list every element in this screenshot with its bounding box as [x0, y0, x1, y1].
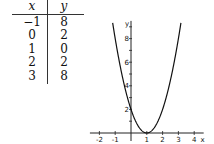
y-axis-label: y [125, 20, 129, 28]
x-tick-label: -1 [112, 136, 119, 144]
parabola-curve [113, 23, 181, 133]
y-tick-label: 8 [125, 35, 129, 43]
parabola-plot: -2-112342468xy [0, 0, 214, 144]
x-axis-label: x [201, 136, 205, 144]
x-tick-label: 4 [192, 136, 197, 144]
x-tick-label: -2 [96, 136, 103, 144]
x-tick-label: 3 [176, 136, 180, 144]
x-tick-label: 1 [145, 136, 149, 144]
x-tick-label: 2 [160, 136, 164, 144]
y-tick-label: 6 [125, 59, 130, 67]
y-tick-label: 2 [125, 106, 129, 114]
